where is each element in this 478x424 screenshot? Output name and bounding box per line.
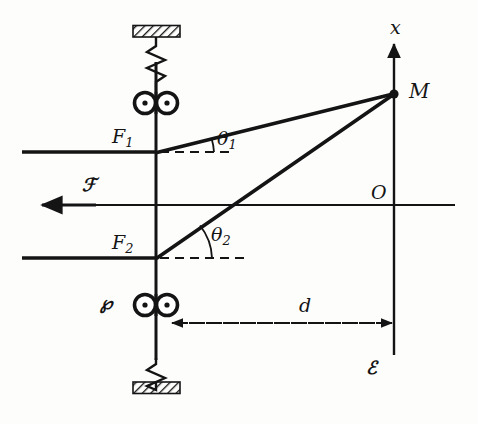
angle-theta2-label: θ2 bbox=[211, 225, 231, 248]
mirror-f1-letter: F bbox=[112, 125, 125, 147]
point-m-marker bbox=[389, 89, 398, 98]
x-axis-label: x bbox=[390, 18, 401, 37]
source-symbol-label: ℰ bbox=[366, 359, 377, 377]
ray-lower-f2-to-m bbox=[157, 95, 394, 259]
screen-symbol-label: ℱ bbox=[82, 176, 96, 194]
diagram-svg bbox=[0, 0, 478, 424]
angle-theta2-letter: θ bbox=[211, 223, 222, 245]
origin-label: O bbox=[371, 183, 387, 202]
mirror-f2-subscript: 2 bbox=[125, 241, 133, 256]
angle-theta1-subscript: 1 bbox=[228, 137, 236, 152]
bottom-roller-pair bbox=[135, 294, 178, 316]
top-roller-pair bbox=[135, 92, 178, 114]
top-fixed-support bbox=[133, 26, 180, 38]
mirror-f2-label: F2 bbox=[112, 233, 133, 256]
angle-theta2-subscript: 2 bbox=[222, 233, 230, 248]
top-roller-left-dot bbox=[142, 100, 147, 105]
top-roller-right-dot bbox=[164, 100, 169, 105]
distance-d-label: d bbox=[299, 296, 311, 315]
mirror-f1-label: F1 bbox=[112, 127, 133, 150]
top-support-hatching bbox=[133, 26, 180, 38]
bottom-support-hatching bbox=[133, 382, 180, 394]
ray-upper-f1-to-m bbox=[157, 94, 393, 153]
figure-canvas: x M O F1 F2 θ1 θ2 d ℱ ℘ ℰ bbox=[0, 0, 478, 424]
piezo-symbol-label: ℘ bbox=[100, 294, 113, 312]
angle-theta1-letter: θ bbox=[217, 127, 228, 149]
point-m-label: M bbox=[409, 81, 429, 101]
mirror-f1-subscript: 1 bbox=[125, 135, 133, 150]
mirror-f2-letter: F bbox=[112, 231, 125, 253]
bottom-fixed-support bbox=[133, 382, 180, 394]
angle-theta1-label: θ1 bbox=[217, 129, 237, 152]
bottom-roller-left-dot bbox=[142, 302, 147, 307]
bottom-roller-right-dot bbox=[164, 302, 169, 307]
